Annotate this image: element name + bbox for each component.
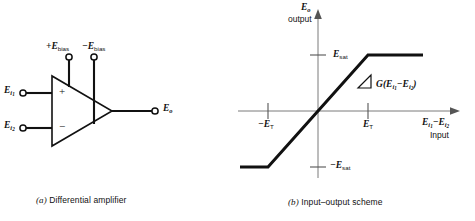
figure-root: Ei1 Ei2 Eo +Ebias −Ebias + − (a) Differe…	[0, 0, 475, 221]
transfer-characteristic-plot	[238, 0, 475, 190]
input-label-2: Ei2	[4, 121, 15, 132]
input-terminal-2	[20, 125, 26, 131]
bias-positive-terminal	[66, 54, 72, 60]
input-label-1: Ei1	[4, 86, 15, 97]
label-negative-saturation: −Esat	[330, 161, 350, 171]
inverting-input-sign: −	[59, 120, 65, 132]
noninverting-input-sign: +	[59, 85, 65, 97]
y-axis-name-label: output	[288, 14, 312, 24]
caption-panel-b: (b) Input–output scheme	[288, 197, 383, 207]
bias-positive-label: +Ebias	[46, 42, 69, 52]
label-positive-saturation: Esat	[333, 50, 348, 60]
output-label: Eo	[163, 104, 173, 114]
output-terminal	[152, 108, 158, 114]
x-axis-name-label: Input	[430, 130, 449, 140]
caption-panel-a: (a) Differential amplifier	[36, 195, 126, 205]
y-axis-symbol-label: Eo	[301, 3, 311, 13]
bias-negative-label: −Ebias	[82, 42, 105, 52]
y-axis-arrowhead	[314, 9, 322, 19]
bias-negative-terminal	[91, 54, 97, 60]
x-axis-symbol-label: Ei1−Ei2	[422, 118, 449, 129]
label-negative-threshold: −ET	[258, 120, 274, 130]
gain-annotation-label: G(Ei1−Ei2)	[376, 80, 416, 91]
label-positive-threshold: ET	[363, 120, 373, 130]
input-terminal-1	[20, 90, 26, 96]
x-axis-arrowhead	[450, 107, 460, 115]
differential-amplifier-schematic	[0, 0, 238, 190]
slope-triangle-icon	[358, 75, 371, 88]
